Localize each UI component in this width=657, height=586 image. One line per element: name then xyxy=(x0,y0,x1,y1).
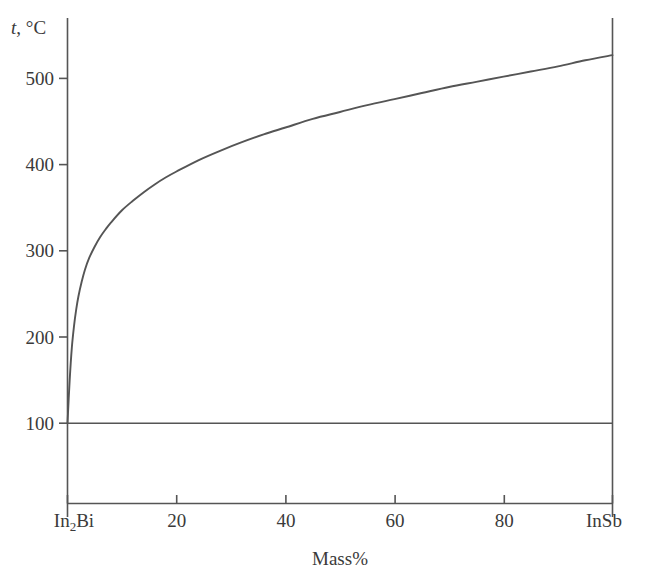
y-tick-label-100: 100 xyxy=(0,413,54,435)
y-tick-marks xyxy=(59,78,68,423)
x-tick-label-in2bi-tail: Bi xyxy=(76,510,94,531)
x-tick-label-40: 40 xyxy=(276,510,295,532)
y-tick-label-500: 500 xyxy=(0,68,54,90)
x-tick-marks xyxy=(68,495,613,504)
y-axis-title-unit: , °C xyxy=(16,17,46,38)
x-tick-label-in2bi-sub: 2 xyxy=(70,519,77,534)
y-tick-label-400: 400 xyxy=(0,154,54,176)
x-axis-title: Mass% xyxy=(312,548,368,570)
y-tick-label-200: 200 xyxy=(0,327,54,349)
phase-diagram-figure: t, °C 500 400 300 200 100 In2Bi 20 40 60… xyxy=(0,0,657,586)
x-tick-label-insb: InSb xyxy=(586,510,622,532)
liquidus-curve xyxy=(68,55,613,423)
x-tick-label-60: 60 xyxy=(386,510,405,532)
x-tick-label-in2bi: In2Bi xyxy=(54,510,94,532)
y-tick-label-300: 300 xyxy=(0,240,54,262)
x-tick-label-20: 20 xyxy=(167,510,186,532)
x-tick-label-80: 80 xyxy=(495,510,514,532)
x-tick-label-in2bi-head: In xyxy=(54,510,70,531)
y-axis-title: t, °C xyxy=(11,17,46,39)
chart-canvas xyxy=(0,0,657,586)
